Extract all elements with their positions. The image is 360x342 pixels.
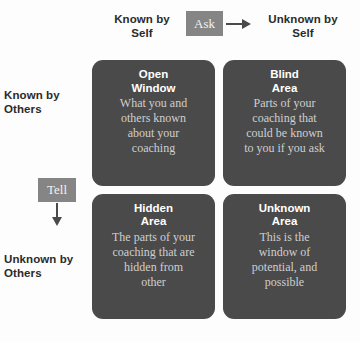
- axis-label-known-by-self: Known by Self: [92, 12, 192, 40]
- quadrant-grid: Open Window What you and others known ab…: [92, 60, 346, 319]
- quadrant-title: Blind Area: [270, 68, 299, 95]
- quadrant-title: Hidden Area: [134, 202, 173, 229]
- tell-chip: Tell: [38, 178, 76, 202]
- johari-window-diagram: Known by Self Unknown by Self Known by O…: [0, 0, 360, 342]
- quadrant-body: What you and others known about your coa…: [120, 96, 187, 156]
- quadrant-title: Unknown Area: [259, 202, 311, 229]
- quadrant-body: This is the window of potential, and pos…: [252, 230, 317, 290]
- ask-chip: Ask: [186, 11, 223, 36]
- quadrant-unknown-area: Unknown Area This is the window of poten…: [223, 194, 346, 320]
- quadrant-hidden-area: Hidden Area The parts of your coaching t…: [92, 194, 215, 320]
- quadrant-title: Open Window: [132, 68, 176, 95]
- quadrant-open-window: Open Window What you and others known ab…: [92, 60, 215, 186]
- ask-arrow-right-icon: [226, 16, 252, 32]
- axis-label-known-by-others: Known by Others: [4, 88, 90, 116]
- axis-label-unknown-by-others: Unknown by Others: [4, 252, 94, 280]
- quadrant-blind-area: Blind Area Parts of your coaching that c…: [223, 60, 346, 186]
- tell-arrow-down-icon: [49, 203, 65, 227]
- axis-label-unknown-by-self: Unknown by Self: [253, 12, 353, 40]
- quadrant-body: Parts of your coaching that could be kno…: [244, 96, 325, 156]
- quadrant-body: The parts of your coaching that are hidd…: [112, 230, 195, 290]
